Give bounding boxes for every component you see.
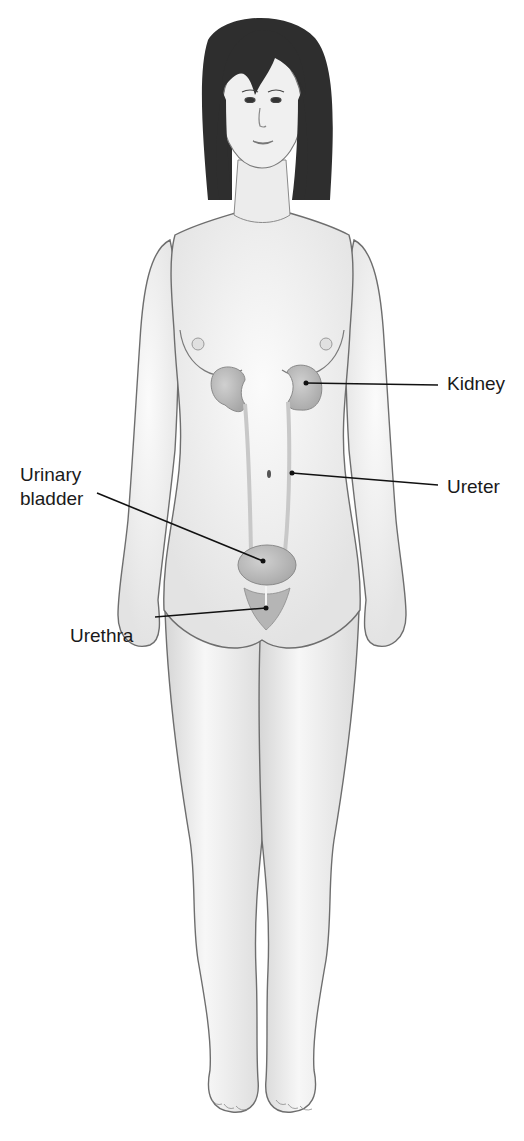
label-urinary-bladder: Urinary bladder <box>20 463 130 511</box>
label-urinary-bladder-line1: Urinary <box>20 463 130 487</box>
neck <box>234 160 290 223</box>
label-urinary-bladder-line2: bladder <box>20 487 130 511</box>
left-leg <box>165 610 265 1112</box>
label-ureter: Ureter <box>447 475 500 499</box>
right-leg <box>259 610 359 1112</box>
label-kidney: Kidney <box>447 372 505 396</box>
urinary-bladder-organ <box>238 545 296 585</box>
navel <box>267 470 271 478</box>
anatomy-figure <box>0 0 524 1141</box>
label-urethra: Urethra <box>70 624 133 648</box>
